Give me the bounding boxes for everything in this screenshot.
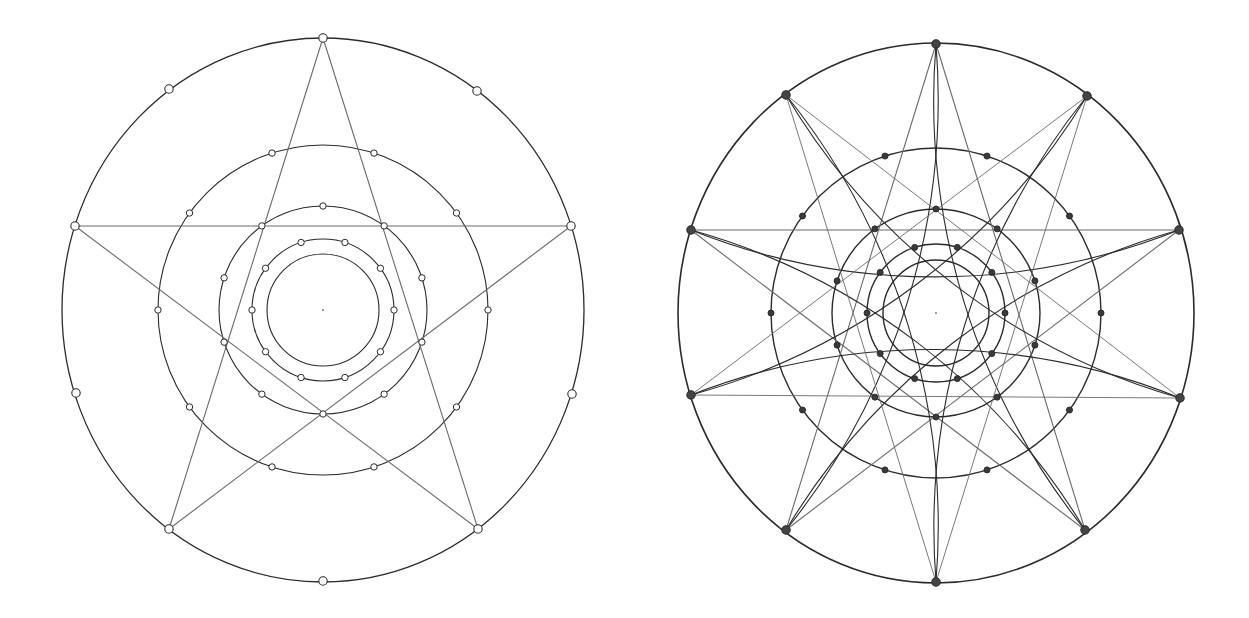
- construction-dot: [768, 310, 774, 316]
- construction-dot: [381, 223, 387, 229]
- construction-dot: [834, 342, 840, 348]
- construction-dot: [872, 226, 878, 232]
- secondary-star-line: [691, 395, 1180, 398]
- secondary-star-line: [691, 96, 1087, 395]
- construction-dot: [1066, 407, 1072, 413]
- outer-vertex-dot: [71, 222, 79, 230]
- outer-vertex-dot: [319, 577, 327, 585]
- pentagram-line: [936, 44, 1085, 530]
- construction-dot: [186, 404, 192, 410]
- outer-vertex-dot: [1081, 526, 1089, 534]
- construction-dot: [994, 394, 1000, 400]
- construction-dot: [259, 223, 265, 229]
- construction-dot: [342, 239, 348, 245]
- construction-dot: [989, 351, 995, 357]
- construction-dot: [994, 226, 1000, 232]
- outer-vertex-dot: [932, 40, 940, 48]
- outer-vertex-dot: [319, 34, 327, 42]
- construction-dot: [269, 464, 275, 470]
- construction-dot: [485, 307, 491, 313]
- secondary-star-line: [786, 95, 1180, 398]
- outer-vertex-dot: [72, 389, 80, 397]
- construction-dot: [419, 339, 425, 345]
- construction-dot: [877, 269, 883, 275]
- outer-vertex-dot: [473, 87, 481, 95]
- pentagram-figure: [62, 34, 584, 585]
- construction-dot: [342, 374, 348, 380]
- outer-vertex-dot: [1176, 394, 1184, 402]
- construction-dot: [882, 153, 888, 159]
- outer-vertex-dot: [567, 222, 575, 230]
- construction-dot: [249, 307, 255, 313]
- construction-dot: [1002, 310, 1008, 316]
- construction-dot: [221, 275, 227, 281]
- outer-vertex-dot: [932, 578, 940, 586]
- construction-dot: [864, 310, 870, 316]
- secondary-star-line: [786, 95, 936, 582]
- construction-dot: [377, 349, 383, 355]
- construction-dot: [954, 376, 960, 382]
- construction-dot: [298, 239, 304, 245]
- construction-dot: [1032, 278, 1038, 284]
- construction-dot: [371, 464, 377, 470]
- construction-dot: [262, 349, 268, 355]
- construction-dot: [453, 404, 459, 410]
- outer-vertex-dot: [687, 391, 695, 399]
- construction-dot: [989, 269, 995, 275]
- outer-vertex-dot: [165, 85, 173, 93]
- construction-dot: [298, 374, 304, 380]
- construction-dot: [419, 275, 425, 281]
- construction-dot: [1098, 310, 1104, 316]
- construction-dot: [320, 411, 326, 417]
- outer-vertex-dot: [782, 91, 790, 99]
- construction-dot: [834, 278, 840, 284]
- construction-dot: [933, 414, 939, 420]
- construction-dot: [872, 394, 878, 400]
- construction-dot: [221, 339, 227, 345]
- construction-dot: [381, 391, 387, 397]
- construction-dot: [259, 391, 265, 397]
- construction-dot: [984, 153, 990, 159]
- construction-dot: [155, 307, 161, 313]
- outer-vertex-dot: [165, 525, 173, 533]
- pentagram-line: [169, 226, 571, 529]
- construction-dot: [186, 210, 192, 216]
- construction-dot: [954, 244, 960, 250]
- construction-dot: [269, 150, 275, 156]
- construction-dot: [377, 265, 383, 271]
- center-point: [935, 312, 937, 314]
- outer-vertex-dot: [1175, 226, 1183, 234]
- outer-vertex-dot: [474, 525, 482, 533]
- drawing-canvas: [0, 0, 1249, 618]
- construction-dot: [262, 265, 268, 271]
- construction-dot: [1066, 213, 1072, 219]
- construction-dot: [933, 206, 939, 212]
- construction-dot: [453, 210, 459, 216]
- outer-vertex-dot: [687, 226, 695, 234]
- construction-dot: [320, 203, 326, 209]
- construction-dot: [984, 467, 990, 473]
- rosette-figure: [678, 40, 1194, 586]
- outer-vertex-dot: [568, 390, 576, 398]
- construction-dot: [371, 150, 377, 156]
- pentagram-line: [75, 226, 478, 529]
- construction-dot: [877, 351, 883, 357]
- construction-dot: [1032, 342, 1038, 348]
- outer-vertex-dot: [782, 526, 790, 534]
- construction-dot: [800, 213, 806, 219]
- construction-dot: [912, 244, 918, 250]
- construction-dot: [391, 307, 397, 313]
- construction-dot: [800, 407, 806, 413]
- center-point: [322, 309, 324, 311]
- outer-vertex-dot: [1083, 92, 1091, 100]
- construction-dot: [882, 467, 888, 473]
- construction-dot: [912, 376, 918, 382]
